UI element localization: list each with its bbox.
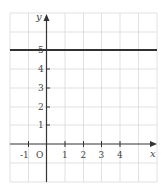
y-tick-label-3: 3 xyxy=(38,83,44,93)
y-axis-arrow-icon xyxy=(44,14,50,21)
y-tick-label-2: 2 xyxy=(38,102,44,112)
origin-label: O xyxy=(36,150,43,160)
y-tick-label-1: 1 xyxy=(38,120,44,130)
x-tick-label-4: 4 xyxy=(117,150,123,160)
x-axis-label: x xyxy=(150,148,156,159)
coordinate-plane: y x O -1 1 2 3 4 1 2 3 4 5 xyxy=(0,0,166,193)
y-tick-label-4: 4 xyxy=(38,64,44,74)
y-tick-label-5: 5 xyxy=(38,45,44,55)
x-tick-label-2: 2 xyxy=(81,150,87,160)
x-tick-label-3: 3 xyxy=(99,150,105,160)
x-tick-label-m1: -1 xyxy=(20,150,29,160)
x-axis-arrow-icon xyxy=(150,141,157,147)
x-tick-label-1: 1 xyxy=(62,150,68,160)
y-axis-label: y xyxy=(35,11,42,22)
